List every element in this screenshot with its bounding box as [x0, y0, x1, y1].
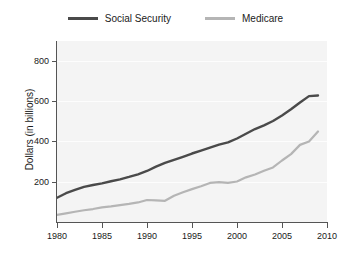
x-tick [147, 223, 148, 228]
chart-figure: Social Security Medicare 800 600 400 200… [0, 0, 351, 256]
x-tick-label-2000: 2000 [217, 231, 257, 241]
x-tick [327, 223, 328, 228]
line-swatch-icon [68, 17, 98, 20]
y-tick-label-600: 600 [34, 97, 49, 106]
legend-label-social-security: Social Security [105, 13, 171, 24]
chart-legend: Social Security Medicare [0, 8, 351, 28]
legend-entry-social-security: Social Security [68, 13, 171, 24]
legend-entry-medicare: Medicare [205, 13, 283, 24]
line-social-security [57, 96, 318, 198]
y-tick [52, 182, 57, 183]
line-swatch-icon [205, 17, 235, 20]
x-tick [192, 223, 193, 228]
x-tick [237, 223, 238, 228]
x-tick-label-1990: 1990 [127, 231, 167, 241]
y-tick-label-200: 200 [34, 178, 49, 187]
y-tick [52, 141, 57, 142]
x-tick-label-1980: 1980 [37, 231, 77, 241]
plot-area [57, 41, 327, 222]
y-tick-label-800: 800 [34, 57, 49, 66]
line-medicare [57, 132, 318, 215]
y-tick [52, 101, 57, 102]
y-tick [52, 61, 57, 62]
y-axis-line [56, 41, 57, 223]
x-tick-label-1985: 1985 [82, 231, 122, 241]
x-tick-label-1995: 1995 [172, 231, 212, 241]
legend-label-medicare: Medicare [242, 13, 283, 24]
y-axis-title: Dollars (in billions) [24, 50, 35, 210]
chart-lines [57, 41, 327, 222]
x-tick-label-2010: 2010 [307, 231, 347, 241]
x-tick [57, 223, 58, 228]
x-tick-label-2005: 2005 [262, 231, 302, 241]
x-tick [102, 223, 103, 228]
y-tick-label-400: 400 [34, 137, 49, 146]
x-tick [282, 223, 283, 228]
